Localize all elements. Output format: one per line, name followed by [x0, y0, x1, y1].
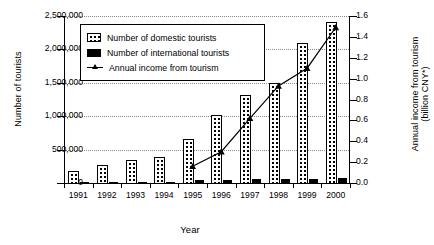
legend-label-international: Number of international tourists [107, 48, 229, 58]
y-axis-right-tick-label: 0.2 [356, 156, 368, 166]
bar-domestic [240, 95, 251, 185]
legend-label-income: Annual income from tourism [109, 63, 219, 73]
y-axis-left-tick-label: 1,500,000 [45, 77, 83, 87]
y-axis-right-tick-label: 0.8 [356, 94, 368, 104]
y-axis-left-tick-label: 0 [78, 177, 83, 187]
y-axis-left-tick-mark [57, 83, 64, 84]
x-axis-title: Year [0, 224, 380, 235]
y-axis-left-tick-mark [57, 49, 64, 50]
x-axis-tick-mark [121, 183, 122, 188]
legend-item-income: Annual income from tourism [87, 60, 257, 75]
y-axis-right-tick-mark [350, 183, 357, 184]
gridline [65, 16, 349, 17]
bar-domestic [154, 157, 165, 184]
bar-domestic [269, 83, 280, 184]
bar-domestic [211, 115, 222, 184]
y-axis-left-tick-mark [57, 116, 64, 117]
x-axis-tick-mark [93, 183, 94, 188]
triangle-line-swatch-icon [87, 63, 103, 72]
y-axis-right-tick-label: 1.2 [356, 52, 368, 62]
bar-domestic [297, 43, 308, 184]
tourism-chart: Number of tourists Annual income from to… [0, 0, 434, 245]
bar-domestic [183, 139, 194, 184]
dotted-bar-swatch-icon [87, 33, 101, 42]
y-axis-right-tick-label: 0.0 [356, 177, 368, 187]
y-axis-right-tick-mark [350, 100, 357, 101]
bar-domestic [326, 22, 337, 184]
y-axis-left-tick-mark [57, 183, 64, 184]
y-axis-left-tick-mark [57, 150, 64, 151]
y-axis-left-tick-label: 500,000 [52, 144, 83, 154]
x-axis-tick-mark [150, 183, 151, 188]
y-axis-right-tick-label: 0.4 [356, 135, 368, 145]
bar-domestic [126, 160, 137, 184]
x-axis-tick-mark [236, 183, 237, 188]
x-axis-tick-mark [264, 183, 265, 188]
y-axis-right-title: Annual income from tourism (billion CNY*… [410, 30, 430, 158]
legend-item-domestic: Number of domestic tourists [87, 30, 257, 45]
y-axis-right-tick-label: 0.6 [356, 114, 368, 124]
legend-item-international: Number of international tourists [87, 45, 257, 60]
y-axis-left-tick-label: 1,000,000 [45, 110, 83, 120]
y-axis-left-tick-label: 2,000,000 [45, 43, 83, 53]
y-axis-right-tick-mark [350, 162, 357, 163]
y-axis-left-tick-mark [57, 16, 64, 17]
y-axis-right-tick-mark [350, 37, 357, 38]
x-axis-tick-mark [64, 183, 65, 188]
y-axis-right-tick-mark [350, 16, 357, 17]
legend: Number of domestic tourists Number of in… [80, 24, 265, 81]
legend-label-domestic: Number of domestic tourists [107, 33, 217, 43]
x-axis-tick-mark [178, 183, 179, 188]
y-axis-left-title: Number of tourists [13, 29, 23, 149]
x-axis-tick-mark [293, 183, 294, 188]
y-axis-right-tick-mark [350, 141, 357, 142]
x-axis-tick-mark [321, 183, 322, 188]
y-axis-right-tick-mark [350, 79, 357, 80]
x-axis-tick-mark [350, 183, 351, 188]
y-axis-right-tick-mark [350, 120, 357, 121]
x-axis-tick-mark [207, 183, 208, 188]
black-bar-swatch-icon [87, 49, 101, 57]
y-axis-right-tick-mark [350, 58, 357, 59]
bar-domestic [97, 165, 108, 184]
y-axis-left-tick-label: 2,500,000 [45, 10, 83, 20]
y-axis-right-tick-label: 1.0 [356, 73, 368, 83]
y-axis-right-tick-label: 1.4 [356, 31, 368, 41]
y-axis-right-tick-label: 1.6 [356, 10, 368, 20]
x-axis-tick-label: 2000 [319, 190, 353, 200]
